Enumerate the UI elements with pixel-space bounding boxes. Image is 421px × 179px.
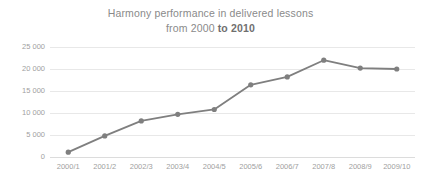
y-axis-tick-label: 0 — [41, 153, 45, 161]
y-axis-labels: 05 00010 00015 00020 00025 000 — [0, 47, 45, 157]
x-axis-labels: 2000/12001/22002/32003/42004/52005/62006… — [50, 162, 415, 176]
data-point-marker — [358, 66, 363, 71]
y-axis-tick-label: 15 000 — [22, 87, 45, 95]
x-axis-tick-label: 2000/1 — [57, 162, 80, 172]
y-axis-tick-label: 10 000 — [22, 109, 45, 117]
x-axis-tick-label: 2006/7 — [276, 162, 299, 172]
line-chart: Harmony performance in delivered lessons… — [0, 0, 421, 179]
x-axis-tick-label: 2005/6 — [239, 162, 262, 172]
x-axis-baseline — [50, 157, 415, 158]
data-point-marker — [248, 82, 253, 87]
data-point-marker — [102, 133, 107, 138]
data-point-marker — [285, 74, 290, 79]
x-axis-tick-label: 2004/5 — [203, 162, 226, 172]
x-axis-tick-label: 2008/9 — [349, 162, 372, 172]
plot-area — [50, 47, 415, 157]
chart-title-line-2-prefix: from 2000 — [166, 22, 218, 34]
chart-title-line-2: from 2000 to 2010 — [0, 21, 421, 36]
series-polyline — [68, 60, 397, 152]
y-axis-tick-label: 5 000 — [26, 131, 45, 139]
data-point-marker — [175, 112, 180, 117]
chart-title-line-1: Harmony performance in delivered lessons — [108, 7, 314, 19]
x-axis-tick-label: 2009/10 — [383, 162, 410, 172]
x-axis-tick-label: 2002/3 — [130, 162, 153, 172]
x-axis-tick-label: 2007/8 — [312, 162, 335, 172]
data-point-marker — [212, 107, 217, 112]
chart-title-line-2-emphasis: to 2010 — [218, 22, 255, 34]
x-axis-tick-label: 2001/2 — [93, 162, 116, 172]
data-point-marker — [394, 66, 399, 71]
y-axis-tick-label: 20 000 — [22, 65, 45, 73]
chart-title: Harmony performance in delivered lessons… — [0, 6, 421, 36]
series-line-delivered-lessons — [50, 47, 415, 157]
series-markers — [66, 58, 400, 155]
data-point-marker — [321, 58, 326, 63]
data-point-marker — [139, 118, 144, 123]
x-axis-tick-label: 2003/4 — [166, 162, 189, 172]
y-axis-tick-label: 25 000 — [22, 43, 45, 51]
data-point-marker — [66, 150, 71, 155]
